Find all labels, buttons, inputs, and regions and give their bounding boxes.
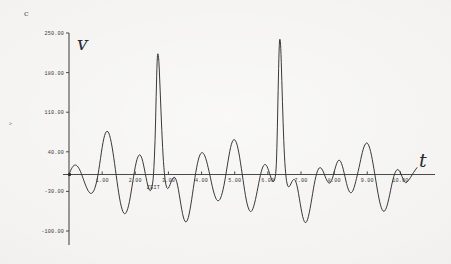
y-tick-label: 250.00 — [44, 31, 64, 37]
curve-group — [69, 39, 417, 222]
x-axis-ticks: 1.002.003.004.005.006.007.008.009.0010.0… — [96, 171, 409, 184]
y-tick-label: 180.00 — [44, 71, 64, 77]
chart-screenshot: -100.00-30.0040.00110.00180.00250.00 1.0… — [0, 0, 451, 264]
y-axis-symbol-v: ᴠ — [77, 32, 89, 54]
x-tick-label: 4.00 — [195, 178, 208, 184]
y-axis-ticks: -100.00-30.0040.00110.00180.00250.00 — [41, 31, 69, 235]
x-tick-label: 5.00 — [228, 178, 241, 184]
x-axis-symbol-t: t — [419, 149, 427, 171]
x-axis-caption: ZEIT — [147, 185, 160, 191]
side-axis-label-v: v — [7, 122, 13, 126]
oscillation-plot: -100.00-30.0040.00110.00180.00250.00 1.0… — [0, 0, 451, 264]
y-tick-label: -30.00 — [44, 189, 64, 195]
y-tick-label: 40.00 — [48, 150, 64, 156]
axes-group — [63, 33, 435, 245]
y-tick-label: 110.00 — [44, 110, 64, 116]
figure-corner-label-c: c — [24, 9, 29, 18]
x-tick-label: 9.00 — [361, 178, 374, 184]
waveform-curve — [69, 39, 417, 222]
y-tick-label: -100.00 — [41, 229, 64, 235]
x-tick-label: 2.00 — [129, 178, 142, 184]
